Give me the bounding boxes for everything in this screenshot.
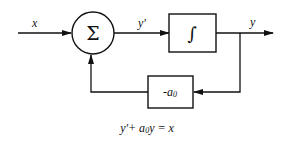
- input-label: x: [31, 16, 38, 30]
- block-diagram: x Σ y' ∫ y -a0 y'+ a0y = x: [0, 0, 293, 141]
- summing-junction: Σ: [72, 12, 114, 54]
- sigma-icon: Σ: [86, 22, 99, 44]
- input-signal: x: [18, 16, 71, 33]
- feedback-path: -a0: [91, 33, 240, 108]
- derivative-label: y': [137, 16, 146, 30]
- feedback-arrow-out: [91, 55, 148, 92]
- output-label: y: [249, 15, 256, 29]
- derivative-signal: y': [114, 16, 169, 33]
- integrator-block: ∫: [169, 14, 216, 52]
- system-equation: y'+ a0y = x: [119, 121, 174, 135]
- output-signal: y: [216, 15, 273, 33]
- integral-icon: ∫: [187, 23, 197, 44]
